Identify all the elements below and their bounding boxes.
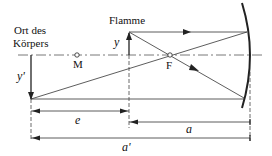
object-location-label-2: Körpers [13, 37, 48, 49]
focal-point-label: F [166, 59, 172, 71]
center-point-marker [75, 53, 79, 57]
ray-through-focus-incoming [129, 32, 244, 98]
concave-mirror-diagram: Ort des Körpers Flamme y y' M F e a a' [0, 0, 272, 156]
ray-arrow-icon [183, 29, 191, 35]
dim-e-label: e [75, 113, 81, 127]
focal-point-marker [168, 53, 172, 57]
dim-a-prime-label: a' [122, 140, 131, 154]
center-point-label: M [73, 58, 83, 70]
ray-arrow-icon [189, 64, 199, 71]
object-location-label-1: Ort des [14, 24, 46, 36]
object-height-label: y [113, 35, 120, 49]
concave-mirror [242, 3, 250, 108]
flame-label: Flamme [109, 14, 145, 26]
image-height-label: y' [16, 69, 25, 83]
ray-reflected-through-focus [31, 32, 247, 99]
dim-a-label: a [186, 122, 192, 136]
